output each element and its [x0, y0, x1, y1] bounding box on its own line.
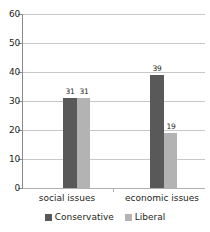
bar-conservative-social-issues	[63, 98, 77, 188]
y-tick-label-10: 10	[2, 155, 20, 164]
gridline-10	[22, 159, 205, 160]
conservative-swatch-icon	[45, 214, 52, 221]
x-axis-label-economic-issues: economic issues	[117, 193, 207, 204]
plot-area: 60 50 40 30 20 10 0 31 31 39 19 social i…	[0, 0, 210, 232]
y-tick-label-20: 20	[2, 126, 20, 135]
bar-label-liberal-social-issues: 31	[76, 88, 92, 96]
bar-liberal-social-issues	[77, 98, 90, 188]
y-tick-label-50: 50	[2, 39, 20, 48]
gridline-60	[22, 14, 205, 15]
category-divider	[113, 188, 114, 192]
legend-label-conservative: Conservative	[55, 212, 114, 222]
bar-chart: 60 50 40 30 20 10 0 31 31 39 19 social i…	[0, 0, 210, 232]
y-tick-label-0: 0	[2, 184, 20, 193]
gridline-30	[22, 101, 205, 102]
legend-item-liberal: Liberal	[125, 212, 165, 222]
legend-label-liberal: Liberal	[135, 212, 165, 222]
y-tick-label-40: 40	[2, 68, 20, 77]
liberal-swatch-icon	[125, 214, 132, 221]
bar-label-liberal-economic-issues: 19	[163, 123, 179, 131]
y-tick-label-60: 60	[2, 10, 20, 19]
legend-item-conservative: Conservative	[45, 212, 114, 222]
y-tick-label-30: 30	[2, 97, 20, 106]
chart-legend: Conservative Liberal	[0, 212, 210, 222]
bar-conservative-economic-issues	[150, 75, 164, 188]
bar-label-conservative-economic-issues: 39	[149, 65, 165, 73]
x-axis-label-social-issues: social issues	[27, 193, 107, 204]
gridline-50	[22, 43, 205, 44]
bar-liberal-economic-issues	[164, 133, 177, 188]
gridline-40	[22, 72, 205, 73]
